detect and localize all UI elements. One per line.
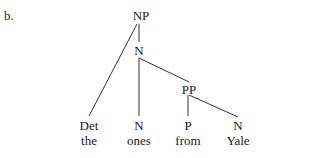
node-pp: PP — [182, 83, 196, 96]
leaf-n-category: N — [134, 119, 143, 132]
edge-n-pp — [139, 58, 189, 82]
leaf-det-word: the — [81, 134, 97, 147]
edge-pp-n — [189, 95, 238, 117]
leaf-n2-word: Yale — [226, 134, 249, 147]
leaf-det-category: Det — [80, 119, 99, 132]
edge-np-det — [89, 24, 137, 116]
node-np: NP — [133, 9, 150, 22]
leaf-n2-category: N — [233, 119, 242, 132]
leaf-p-word: from — [175, 134, 200, 147]
node-n-bar: N — [134, 44, 143, 57]
leaf-p-category: P — [184, 119, 191, 132]
leaf-n-word: ones — [127, 134, 151, 147]
